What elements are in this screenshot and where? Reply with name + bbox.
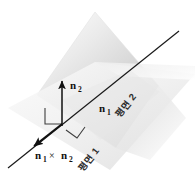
cross-n2-subscript: 2: [69, 155, 73, 164]
cross-product-label: n 1 × n 2: [35, 149, 73, 164]
cross-n1-subscript: 1: [43, 155, 47, 164]
figure-canvas: n 2 n 1 n 1 × n 2 평면 1 평면 2: [0, 0, 195, 178]
plane-intersection-figure: n 2 n 1 n 1 × n 2 평면 1 평면 2: [0, 0, 195, 178]
cross-n1-symbol: n: [35, 149, 41, 161]
n1-subscript: 1: [107, 108, 111, 117]
n2-subscript: 2: [78, 85, 82, 94]
n2-symbol: n: [70, 79, 76, 91]
cross-n2-symbol: n: [61, 149, 67, 161]
n1-symbol: n: [99, 102, 105, 114]
cross-operator-symbol: ×: [49, 150, 55, 161]
